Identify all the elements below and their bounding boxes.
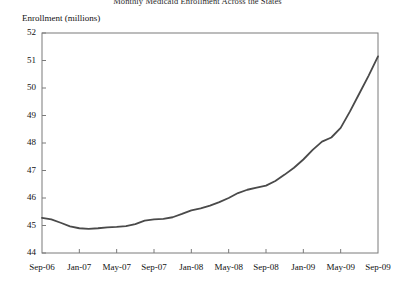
y-axis-ticks bbox=[42, 33, 46, 253]
y-tick-label: 48 bbox=[18, 137, 36, 147]
x-axis-ticks bbox=[79, 249, 340, 253]
y-tick-label: 44 bbox=[18, 247, 36, 257]
y-tick-label: 49 bbox=[18, 110, 36, 120]
data-series-line bbox=[42, 56, 378, 228]
y-tick-label: 50 bbox=[18, 82, 36, 92]
plot-frame bbox=[42, 33, 378, 253]
y-tick-label: 52 bbox=[18, 27, 36, 37]
y-tick-label: 46 bbox=[18, 192, 36, 202]
y-tick-label: 45 bbox=[18, 220, 36, 230]
y-tick-label: 51 bbox=[18, 55, 36, 65]
x-tick-label: Sep-09 bbox=[354, 262, 395, 272]
chart-figure: Monthly Medicaid Enrollment Across the S… bbox=[0, 0, 395, 286]
plot-area bbox=[0, 0, 395, 286]
y-tick-label: 47 bbox=[18, 165, 36, 175]
